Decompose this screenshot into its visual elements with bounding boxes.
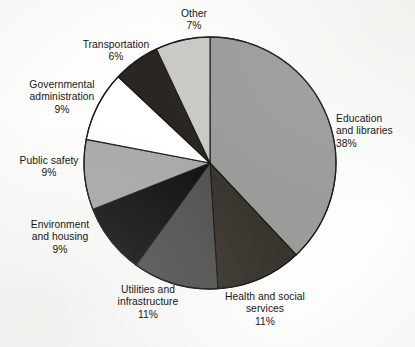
pie-label-transportation-line1: Transportation: [64, 39, 168, 51]
pie-label-utilities-line2: infrastructure: [96, 296, 200, 308]
pie-label-transportation-percent: 6%: [64, 51, 168, 63]
pie-label-health-line1: Health and social: [210, 291, 320, 303]
pie-label-health-and-social-services: Health and social services 11%: [210, 291, 320, 328]
pie-label-publicsafety-line1: Public safety: [4, 155, 94, 167]
pie-label-health-line2: services: [210, 303, 320, 315]
pie-label-public-safety: Public safety 9%: [4, 155, 94, 180]
pie-label-governmental-line2: administration: [10, 91, 114, 103]
pie-label-transportation: Transportation 6%: [64, 39, 168, 64]
pie-label-governmental-line1: Governmental: [10, 79, 114, 91]
pie-label-education-line2: and libraries: [336, 125, 393, 137]
pie-label-environment-percent: 9%: [12, 244, 108, 256]
pie-label-governmental-percent: 9%: [10, 104, 114, 116]
pie-label-education-percent: 38%: [336, 138, 393, 150]
pie-label-other: Other 7%: [156, 8, 232, 33]
pie-label-environment-line2: and housing: [12, 231, 108, 243]
pie-label-education-line1: Education: [336, 113, 393, 125]
pie-label-environment-and-housing: Environment and housing 9%: [12, 219, 108, 256]
pie-label-governmental-administration: Governmental administration 9%: [10, 79, 114, 116]
pie-label-other-line1: Other: [156, 8, 232, 20]
pie-label-utilities-percent: 11%: [96, 309, 200, 321]
pie-label-publicsafety-percent: 9%: [4, 167, 94, 179]
pie-label-utilities-and-infrastructure: Utilities and infrastructure 11%: [96, 284, 200, 321]
pie-label-environment-line1: Environment: [12, 219, 108, 231]
pie-label-education: Education and libraries 38%: [336, 113, 393, 150]
pie-chart: Education and libraries 38% Health and s…: [0, 0, 415, 347]
pie-label-utilities-line1: Utilities and: [96, 284, 200, 296]
pie-slice-group: [84, 37, 336, 289]
pie-label-health-percent: 11%: [210, 316, 320, 328]
pie-label-other-percent: 7%: [156, 20, 232, 32]
